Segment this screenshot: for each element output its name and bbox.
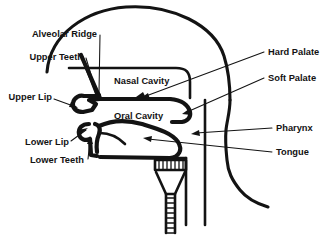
larynx-box-hatching (159, 161, 183, 169)
larynx-cone (156, 172, 185, 194)
tongue-underside-fold (100, 133, 125, 144)
label-soft-palate: Soft Palate (268, 73, 316, 83)
vocal-tract-diagram: Alveolar Ridge Upper Teeth Upper Lip Low… (0, 0, 333, 241)
lower-teeth-edge (95, 124, 100, 152)
neck-outline (226, 100, 268, 207)
trachea-tube (166, 194, 175, 233)
leader-soft-palate (182, 78, 264, 115)
tongue-body (99, 121, 180, 158)
label-hard-palate: Hard Palate (268, 47, 319, 57)
label-lower-teeth: Lower Teeth (30, 155, 84, 165)
label-upper-lip: Upper Lip (9, 92, 53, 102)
lower-lip-and-teeth (79, 124, 97, 156)
label-pharynx: Pharynx (276, 123, 314, 133)
label-alveolar-ridge: Alveolar Ridge (32, 29, 97, 39)
label-lower-lip: Lower Lip (25, 137, 69, 147)
leader-alveolar-ridge (99, 35, 100, 92)
label-tongue: Tongue (276, 147, 309, 157)
label-nasal-cavity: Nasal Cavity (114, 76, 170, 86)
upper-teeth-face (82, 57, 96, 93)
diagram-canvas: Alveolar Ridge Upper Teeth Upper Lip Low… (0, 0, 333, 241)
label-upper-teeth: Upper Teeth (29, 52, 83, 62)
upper-lip-and-teeth (73, 55, 100, 112)
leader-tongue (143, 136, 272, 152)
leader-pharynx (191, 128, 272, 136)
label-oral-cavity: Oral Cavity (114, 111, 164, 121)
leader-nasal-cavity (136, 92, 146, 98)
